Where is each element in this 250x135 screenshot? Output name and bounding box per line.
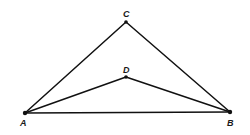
triangle-diagram: A B C D (0, 0, 250, 135)
label-a: A (19, 118, 27, 128)
point-a (23, 111, 27, 115)
point-d (124, 75, 128, 79)
label-d: D (123, 65, 130, 75)
point-c (124, 20, 128, 24)
segment-ac (25, 22, 126, 113)
point-b (228, 110, 232, 114)
segment-cb (126, 22, 230, 112)
segment-ad (25, 77, 126, 113)
label-b: B (227, 118, 234, 128)
segment-db (126, 77, 230, 112)
label-c: C (123, 9, 130, 19)
segment-ab (25, 112, 230, 113)
